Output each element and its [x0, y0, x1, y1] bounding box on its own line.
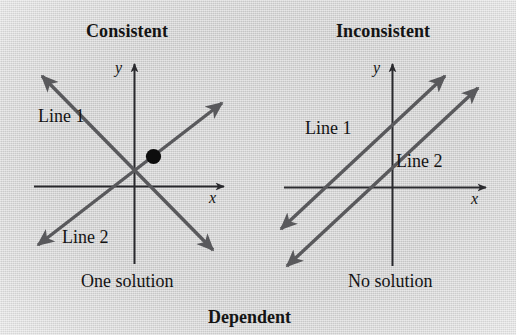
- consistent-x-axis-label: x: [209, 190, 216, 206]
- consistent-line-2-label: Line 2: [62, 228, 109, 246]
- panel-inconsistent-graphics: [281, 64, 486, 266]
- figure-root: Consistent y x Line 1 Line 2 One solutio…: [0, 0, 516, 335]
- intersection-point-marker: [146, 149, 161, 164]
- consistent-caption: One solution: [81, 272, 174, 290]
- figure-caption: Dependent: [208, 308, 291, 326]
- consistent-y-axis-label: y: [115, 60, 122, 76]
- inconsistent-line-1-label: Line 1: [305, 119, 352, 137]
- consistent-line-1-label: Line 1: [38, 107, 85, 125]
- inconsistent-caption: No solution: [348, 272, 433, 290]
- inconsistent-x-axis-label: x: [471, 191, 478, 207]
- inconsistent-line-2: [287, 88, 478, 266]
- panel-title-inconsistent: Inconsistent: [336, 22, 430, 40]
- panel-title-consistent: Consistent: [86, 22, 168, 40]
- inconsistent-line-2-label: Line 2: [396, 152, 443, 170]
- inconsistent-y-axis-label: y: [373, 60, 380, 76]
